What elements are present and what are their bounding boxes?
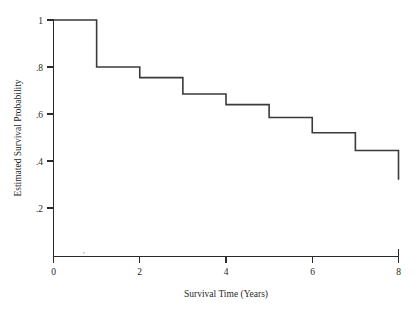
- x-tick-label-6: 6: [310, 267, 315, 277]
- y-axis-tick-labels: 1 .8 .6 .4 .2: [36, 16, 43, 214]
- survival-curve-figure: 1 .8 .6 .4 .2 0 2 4 6 8 Survival Time (Y…: [0, 0, 418, 309]
- x-tick-label-2: 2: [137, 267, 142, 277]
- y-tick-label-0-2: .2: [36, 204, 43, 214]
- plot-axes: [54, 19, 400, 257]
- x-tick-label-4: 4: [224, 267, 229, 277]
- x-axis-title: Survival Time (Years): [184, 289, 268, 300]
- y-tick-label-0-8: .8: [36, 63, 43, 73]
- scan-speck: [83, 252, 85, 254]
- survival-plot-canvas: 1 .8 .6 .4 .2 0 2 4 6 8 Survival Time (Y…: [0, 0, 418, 309]
- y-axis-title: Estimated Survival Probability: [13, 79, 23, 196]
- survival-step-curve: [54, 20, 399, 180]
- y-tick-label-1: 1: [38, 16, 43, 26]
- y-tick-label-0-4: .4: [36, 157, 43, 167]
- x-axis-tick-labels: 0 2 4 6 8: [51, 267, 401, 277]
- x-tick-label-0: 0: [51, 267, 56, 277]
- y-axis-ticks: [47, 20, 54, 208]
- x-tick-label-8: 8: [396, 267, 401, 277]
- y-tick-label-0-6: .6: [36, 110, 43, 120]
